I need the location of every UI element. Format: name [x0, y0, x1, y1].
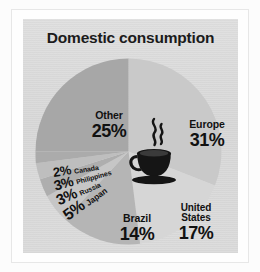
slice-label-brazil: Brazil 14% — [111, 213, 163, 243]
slice-label-europe-pct: 31% — [175, 131, 238, 149]
slice-label-brazil-pct: 14% — [111, 225, 163, 243]
slice-label-europe: Europe 31% — [175, 119, 238, 149]
slice-label-brazil-name: Brazil — [111, 213, 163, 224]
slice-label-united-states: United States 17% — [166, 203, 226, 243]
slice-label-other: Other 25% — [81, 110, 137, 140]
slice-label-united-states-pct: 17% — [166, 224, 226, 242]
slice-label-europe-name: Europe — [175, 119, 238, 130]
chart-image-root: Domestic consumption — [0, 0, 260, 272]
slice-label-other-pct: 25% — [81, 122, 137, 140]
slice-label-other-name: Other — [81, 110, 137, 121]
chart-panel: Domestic consumption — [23, 19, 238, 253]
chart-title: Domestic consumption — [23, 29, 238, 47]
slice-label-united-states-name2: States — [166, 213, 226, 223]
